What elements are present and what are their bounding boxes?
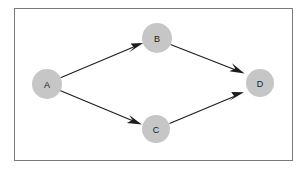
edge-c-to-d-arrowhead [229, 92, 244, 101]
edge-a-to-c-line [60, 91, 135, 122]
node-d-label: D [257, 79, 264, 89]
node-d[interactable]: D [246, 69, 274, 97]
edge-b-to-d[interactable] [171, 45, 245, 74]
node-b[interactable]: B [142, 23, 172, 53]
edge-b-to-d-line [171, 45, 238, 71]
edge-a-to-b[interactable] [61, 43, 144, 78]
node-b-label: B [154, 34, 160, 44]
node-group: A B C D [32, 23, 274, 143]
node-a[interactable]: A [32, 69, 62, 99]
graph-svg: A B C D [0, 0, 308, 171]
node-c-label: C [153, 125, 160, 135]
edge-c-to-d-line [170, 96, 237, 124]
edge-group [60, 43, 245, 125]
diagram-canvas: A B C D [0, 0, 308, 171]
edge-c-to-d[interactable] [170, 92, 245, 124]
node-a-label: A [44, 80, 50, 90]
edge-a-to-c[interactable] [60, 91, 142, 125]
edge-a-to-b-line [61, 46, 137, 78]
node-c[interactable]: C [142, 115, 170, 143]
